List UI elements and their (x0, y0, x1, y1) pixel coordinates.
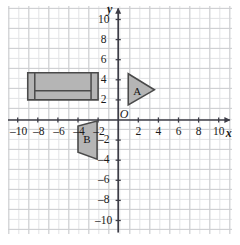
triangle-A-label: A (133, 85, 141, 96)
origin-label: O (120, 108, 129, 120)
x-tick-label: 8 (196, 126, 202, 138)
y-tick-label: 4 (101, 74, 107, 86)
y-tick-label: –4 (98, 154, 110, 166)
x-tick-label: 2 (135, 126, 141, 138)
triangle-B-label: B (83, 134, 90, 145)
y-tick-label: –10 (95, 215, 112, 227)
x-tick-label: 4 (156, 126, 162, 138)
x-axis-label: x (226, 127, 232, 139)
y-tick-label: 2 (101, 94, 107, 106)
x-tick-label: –6 (53, 126, 65, 138)
plot-area: –10–8–6–4–2246810108642–2–4–6–8–10xyOAB (8, 6, 232, 234)
y-tick-label: –2 (98, 134, 110, 146)
labels-overlay: –10–8–6–4–2246810108642–2–4–6–8–10xyOAB (8, 6, 232, 234)
x-tick-label: 6 (176, 126, 182, 138)
x-tick-label: –8 (33, 126, 45, 138)
x-tick-label: 10 (213, 126, 225, 138)
y-tick-label: –8 (98, 195, 110, 207)
x-tick-label: –10 (10, 126, 27, 138)
y-axis-label: y (107, 3, 112, 15)
y-tick-label: 6 (101, 54, 107, 66)
coordinate-plane-figure: –10–8–6–4–2246810108642–2–4–6–8–10xyOAB (0, 0, 240, 245)
y-tick-label: 8 (101, 34, 107, 46)
y-tick-label: –6 (98, 175, 110, 187)
